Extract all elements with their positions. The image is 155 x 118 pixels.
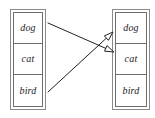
left-list-frame: dog cat bird (10, 9, 46, 110)
left-cell-cat[interactable]: cat (14, 44, 42, 75)
left-cell-dog[interactable]: dog (14, 13, 42, 44)
arrow-bird-to-dog-icon (48, 32, 113, 92)
right-cell-cat[interactable]: cat (116, 44, 146, 75)
left-list-cells: dog cat bird (13, 12, 43, 107)
right-cell-dog[interactable]: dog (116, 13, 146, 44)
pointer-diagram: dog cat bird dog cat bird (0, 0, 155, 118)
arrow-dog-to-cat-line (48, 23, 106, 48)
right-cell-bird[interactable]: bird (116, 75, 146, 106)
right-list-frame: dog cat bird (112, 9, 150, 110)
right-list-cells: dog cat bird (115, 12, 147, 107)
arrow-dog-to-cat-icon (48, 23, 114, 52)
arrow-bird-to-dog-line (48, 38, 106, 92)
left-cell-bird[interactable]: bird (14, 75, 42, 106)
